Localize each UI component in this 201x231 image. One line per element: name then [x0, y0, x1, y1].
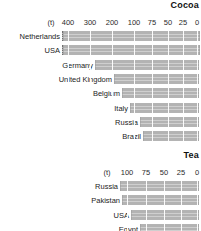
tea-category-label: Egypt: [119, 225, 138, 231]
cocoa-bar-row: Italy: [0, 101, 201, 115]
cocoa-bar-row: Germany: [0, 58, 201, 72]
cocoa-category-label: United Kingdom: [59, 75, 112, 84]
cocoa-axis: (t)4003002001007550250: [0, 17, 201, 28]
cocoa-axis-tick: 0: [195, 17, 199, 28]
chart-page: Cocoa (t)4003002001007550250 Netherlands…: [0, 0, 201, 231]
cocoa-axis-tick: 75: [148, 17, 156, 28]
tea-axis: (t)1007550250: [0, 167, 201, 178]
tea-plot-area: RussiaPakistanUSAEgypt: [0, 179, 201, 231]
cocoa-bar: [140, 117, 199, 127]
cocoa-axis-tick: 200: [106, 17, 119, 28]
tea-axis-tick: 0: [195, 167, 199, 178]
tea-bar-row: USA: [0, 208, 201, 222]
cocoa-gridline: [183, 29, 184, 143]
tea-axis-tick: 50: [160, 167, 168, 178]
tea-axis-tick: 100: [121, 167, 134, 178]
cocoa-bar-row: Russia: [0, 115, 201, 129]
cocoa-axis-tick: 25: [179, 17, 187, 28]
tea-gridline: [197, 179, 198, 231]
tea-bar-row: Russia: [0, 179, 201, 193]
cocoa-bar: [62, 45, 200, 55]
cocoa-bar-row: Belgium: [0, 86, 201, 100]
cocoa-bar: [62, 31, 200, 41]
tea-bar: [131, 210, 199, 220]
cocoa-axis-tick: 300: [84, 17, 97, 28]
cocoa-bar-row: United Kingdom: [0, 72, 201, 86]
tea-axis-tick: (t): [103, 167, 110, 178]
tea-axis-tick: 25: [177, 167, 185, 178]
cocoa-bar: [130, 103, 199, 113]
cocoa-axis-tick: 100: [128, 17, 141, 28]
cocoa-bar: [114, 74, 199, 84]
cocoa-gridline: [134, 29, 135, 143]
tea-gridline: [146, 179, 147, 231]
tea-bar: [122, 195, 199, 205]
cocoa-category-label: Belgium: [93, 89, 120, 98]
cocoa-category-label: USA: [45, 46, 60, 55]
cocoa-chart-title: Cocoa: [170, 0, 199, 10]
tea-gridline: [127, 179, 128, 231]
cocoa-axis-tick: 50: [164, 17, 172, 28]
tea-category-label: Pakistan: [91, 196, 120, 205]
tea-category-label: Russia: [95, 182, 118, 191]
tea-chart-title: Tea: [184, 150, 199, 160]
tea-bar: [140, 224, 199, 231]
cocoa-gridline: [112, 29, 113, 143]
cocoa-bar-row: USA: [0, 43, 201, 57]
cocoa-gridline: [68, 29, 69, 143]
tea-gridline: [164, 179, 165, 231]
cocoa-axis-tick: 400: [62, 17, 75, 28]
cocoa-category-label: Netherlands: [20, 32, 60, 41]
cocoa-gridline: [168, 29, 169, 143]
cocoa-category-label: Brazil: [122, 132, 141, 141]
tea-bar-row: Pakistan: [0, 193, 201, 207]
tea-axis-tick: 75: [142, 167, 150, 178]
tea-bar: [120, 181, 199, 191]
cocoa-category-label: Germany: [62, 60, 93, 69]
tea-bar-row: Egypt: [0, 222, 201, 231]
cocoa-gridline: [90, 29, 91, 143]
cocoa-bar-row: Brazil: [0, 129, 201, 143]
cocoa-category-label: Italy: [114, 103, 128, 112]
tea-gridline: [181, 179, 182, 231]
cocoa-axis-tick: (t): [47, 17, 54, 28]
cocoa-gridline: [152, 29, 153, 143]
cocoa-bar-row: Netherlands: [0, 29, 201, 43]
cocoa-plot-area: NetherlandsUSAGermanyUnited KingdomBelgi…: [0, 29, 201, 143]
cocoa-gridline: [197, 29, 198, 143]
